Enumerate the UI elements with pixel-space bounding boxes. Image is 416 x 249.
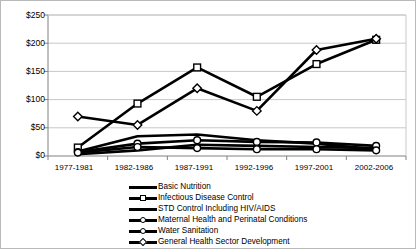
chart-legend: Basic Nutrition Infectious Disease Contr… xyxy=(1,182,415,248)
y-axis-tick-50: $50 xyxy=(1,123,45,132)
y-axis-tick-250: $250 xyxy=(1,11,45,20)
x-axis-tick-6: 2002-2006 xyxy=(342,164,406,172)
legend-item-general-health-sector: General Health Sector Development xyxy=(129,237,290,248)
legend-swatch-icon xyxy=(129,216,157,225)
legend-item-maternal-health: Maternal Health and Perinatal Conditions xyxy=(129,215,307,226)
legend-item-std-control: STD Control Including HIV/AIDS xyxy=(129,204,275,215)
legend-label: Water Sanitation xyxy=(158,227,218,235)
data-point-marker-4-2 xyxy=(194,145,201,152)
data-point-marker-3-3 xyxy=(253,139,260,146)
data-point-marker-4-1 xyxy=(134,144,141,151)
y-axis-tick-0: $0 xyxy=(1,151,45,160)
legend-item-water-sanitation: Water Sanitation xyxy=(129,226,218,237)
legend-swatch-icon xyxy=(129,205,157,214)
legend-swatch-icon xyxy=(129,194,157,203)
chart-figure: $250 $200 $150 $100 $50 $0 1977-1981 198… xyxy=(0,0,416,249)
data-point-marker-5-0 xyxy=(74,112,83,121)
data-point-marker-3-2 xyxy=(194,137,201,144)
legend-label: Maternal Health and Perinatal Conditions xyxy=(158,216,307,224)
x-axis-tick-1: 1977-1981 xyxy=(42,164,106,172)
x-axis-tick-4: 1992-1996 xyxy=(222,164,286,172)
legend-item-infectious-disease-control: Infectious Disease Control xyxy=(129,193,254,204)
y-axis-tick-150: $150 xyxy=(1,67,45,76)
legend-swatch-icon xyxy=(129,227,157,236)
legend-label: Infectious Disease Control xyxy=(158,194,254,202)
legend-label: General Health Sector Development xyxy=(158,238,290,246)
x-axis-tick-3: 1987-1991 xyxy=(162,164,226,172)
x-axis-tick-5: 1997-2001 xyxy=(282,164,346,172)
data-point-marker-1-2 xyxy=(194,64,201,71)
y-axis-tick-100: $100 xyxy=(1,95,45,104)
data-point-marker-4-0 xyxy=(74,149,81,156)
legend-label: Basic Nutrition xyxy=(158,183,211,191)
data-point-marker-1-4 xyxy=(313,61,320,68)
legend-label: STD Control Including HIV/AIDS xyxy=(158,205,275,213)
legend-item-basic-nutrition: Basic Nutrition xyxy=(129,182,211,193)
data-point-marker-4-5 xyxy=(373,147,380,154)
data-point-marker-3-4 xyxy=(313,139,320,146)
legend-swatch-icon xyxy=(129,183,157,192)
data-point-marker-4-3 xyxy=(253,146,260,153)
x-axis-tick-2: 1982-1986 xyxy=(102,164,166,172)
legend-swatch-icon xyxy=(129,238,157,247)
data-point-marker-1-1 xyxy=(134,100,141,107)
data-point-marker-1-3 xyxy=(253,93,260,100)
chart-canvas xyxy=(1,1,415,181)
y-axis-tick-200: $200 xyxy=(1,39,45,48)
series-line-1 xyxy=(78,40,376,148)
data-point-marker-4-4 xyxy=(313,146,320,153)
plot-area: $250 $200 $150 $100 $50 $0 1977-1981 198… xyxy=(1,1,415,181)
